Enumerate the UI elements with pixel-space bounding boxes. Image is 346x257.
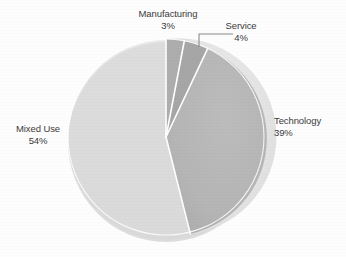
pie-label-technology: Technology 39%	[274, 115, 344, 138]
pie-label-service-name: Service	[215, 20, 267, 32]
pie-label-manufacturing: Manufacturing 3%	[131, 8, 205, 31]
pie-label-technology-name: Technology	[274, 115, 344, 127]
pie-label-service: Service 4%	[215, 20, 267, 43]
pie-label-mixed-use: Mixed Use 54%	[6, 123, 70, 146]
pie-chart: Manufacturing 3% Service 4% Technology 3…	[0, 0, 346, 257]
pie-label-service-value: 4%	[215, 32, 267, 44]
pie-label-technology-value: 39%	[274, 127, 344, 139]
pie-label-manufacturing-value: 3%	[131, 20, 205, 32]
pie-label-mixed-use-name: Mixed Use	[6, 123, 70, 135]
pie-label-mixed-use-value: 54%	[6, 135, 70, 147]
pie-label-manufacturing-name: Manufacturing	[131, 8, 205, 20]
